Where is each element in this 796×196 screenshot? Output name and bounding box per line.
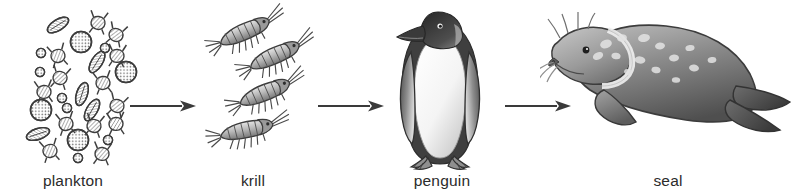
stage-label-seal: seal	[540, 172, 796, 190]
penguin-illustration	[378, 0, 506, 176]
krill-group-illustration	[188, 0, 318, 174]
plankton-cluster-illustration	[0, 0, 146, 174]
stage-label-penguin: penguin	[378, 172, 506, 190]
arrow-right-icon	[316, 96, 386, 120]
stage-label-plankton: plankton	[0, 172, 146, 190]
food-chain-stage-seal: seal	[540, 0, 796, 196]
food-chain-stage-krill: krill	[188, 0, 318, 196]
food-chain-stage-penguin: penguin	[378, 0, 506, 196]
stage-label-krill: krill	[188, 172, 318, 190]
food-chain-diagram: plankton	[0, 0, 796, 196]
seal-illustration	[540, 0, 796, 154]
food-chain-stage-plankton: plankton	[0, 0, 146, 196]
